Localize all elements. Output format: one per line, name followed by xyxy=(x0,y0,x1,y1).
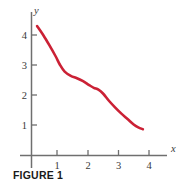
x-axis-label: x xyxy=(170,143,176,154)
y-axis-label: y xyxy=(33,5,39,16)
figure-container: 4 3 2 1 1 2 3 4 y x FIGURE 1 xyxy=(0,0,189,190)
x-tick-label-3: 3 xyxy=(116,160,121,171)
data-curve xyxy=(37,26,143,129)
x-tick-label-2: 2 xyxy=(85,160,90,171)
y-tick-label-4: 4 xyxy=(22,30,28,41)
y-tick-label-3: 3 xyxy=(22,60,27,71)
y-tick-label-1: 1 xyxy=(22,120,27,131)
y-tick-label-2: 2 xyxy=(22,90,27,101)
figure-caption: FIGURE 1 xyxy=(13,169,63,181)
plot-area: 4 3 2 1 1 2 3 4 y x xyxy=(0,0,189,190)
x-tick-label-4: 4 xyxy=(146,160,152,171)
